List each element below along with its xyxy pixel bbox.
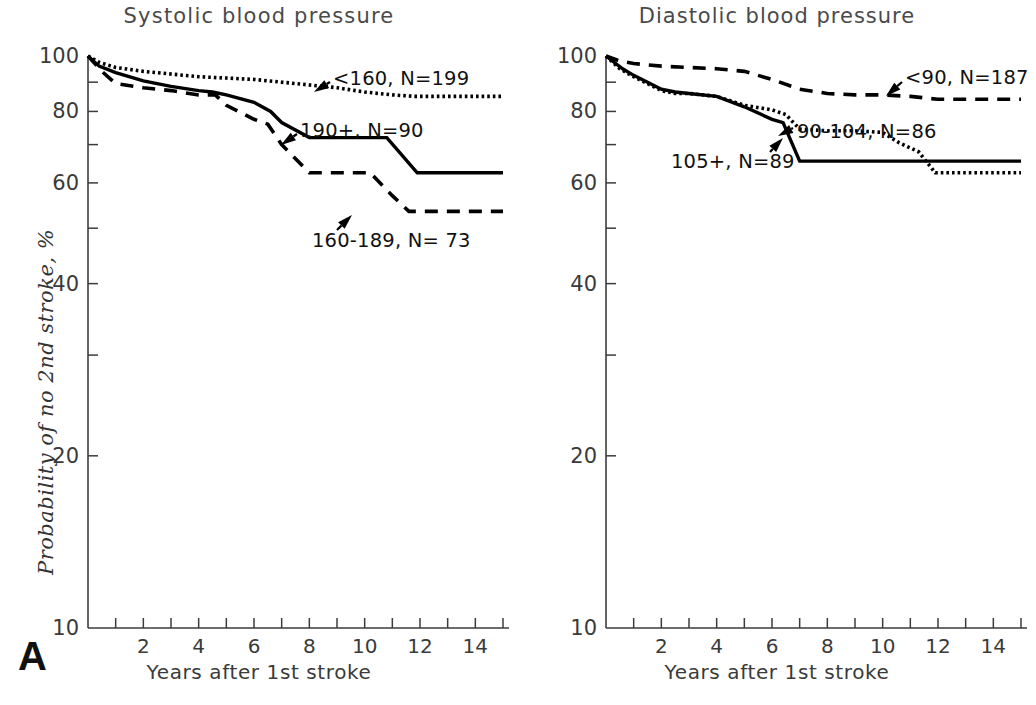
panel-a-letter: A [18,636,47,676]
panel-diastolic: Diastolic blood pressure 100806040201024… [518,0,1036,705]
panel-a-y-axis-title: Probability of no 2nd stroke, % [34,229,58,575]
x-tick-label: 2 [655,634,668,658]
x-tick-label: 4 [710,634,723,658]
annotation-arrow-line [897,82,902,86]
annotation-105plus: 105+, N=89 [671,150,795,173]
x-tick-label: 12 [407,634,432,658]
x-tick-label: 6 [766,634,779,658]
y-tick-label: 60 [570,171,597,195]
x-tick-label: 2 [137,634,150,658]
x-tick-label: 14 [981,634,1006,658]
annotation-lt90: <90, N=187 [905,66,1029,89]
y-tick-label: 10 [570,616,597,640]
panel-systolic: Systolic blood pressure 1008060402010246… [0,0,518,705]
y-tick-label: 60 [52,171,79,195]
figure-root: Systolic blood pressure 1008060402010246… [0,0,1036,705]
annotation-160-189: 160-189, N= 73 [312,229,471,252]
y-tick-label: 100 [557,44,597,68]
y-tick-label: 40 [570,272,597,296]
x-tick-label: 6 [248,634,261,658]
y-tick-label: 80 [52,99,79,123]
y-tick-label: 10 [52,616,79,640]
annotation-arrow-line [327,82,330,84]
annotation-lt160: <160, N=199 [333,67,469,90]
x-tick-label: 12 [925,634,950,658]
x-tick-label: 14 [463,634,488,658]
annotation-190plus: 190+, N=90 [300,119,424,142]
x-tick-label: 10 [870,634,895,658]
annotation-arrow-icon [281,133,296,145]
panel-a-plot: 10080604020102468101214<160, N=199190+, … [0,0,518,705]
panel-a-x-axis-title: Years after 1st stroke [0,660,518,684]
y-tick-label: 20 [570,444,597,468]
x-tick-label: 8 [821,634,834,658]
y-tick-label: 80 [570,99,597,123]
annotation-arrow-line [293,134,297,137]
annotation-90-104: 90-104, N=86 [797,120,937,143]
y-tick-label: 100 [39,44,79,68]
x-tick-label: 4 [192,634,205,658]
x-tick-label: 10 [352,634,377,658]
panel-b-x-axis-title: Years after 1st stroke [518,660,1036,684]
x-tick-label: 8 [303,634,316,658]
panel-b-plot: 10080604020102468101214<90, N=18790-104,… [518,0,1036,705]
annotation-arrow-line [791,128,793,129]
